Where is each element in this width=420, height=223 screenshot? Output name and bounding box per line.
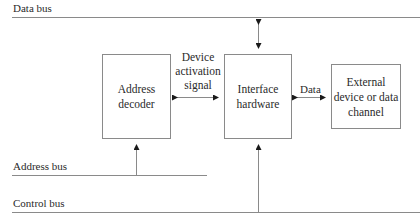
address-decoder-label: Address decoder bbox=[103, 55, 170, 139]
interface-hardware-label: Interface hardware bbox=[225, 55, 291, 139]
data-connection-label: Data bbox=[300, 83, 321, 96]
address-bus-label: Address bus bbox=[13, 160, 67, 173]
device-activation-signal-label: Device activation signal bbox=[172, 48, 224, 94]
external-device-label: External device or data channel bbox=[332, 65, 400, 129]
control-bus-label: Control bus bbox=[13, 197, 65, 210]
data-bus-label: Data bus bbox=[13, 2, 52, 15]
